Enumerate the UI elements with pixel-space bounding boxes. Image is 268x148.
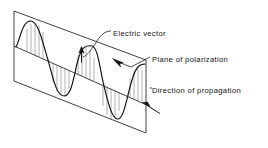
polarized-wave-diagram: Electric vector Plane of polarization Di…	[0, 0, 268, 148]
label-plane-of-polarization: Plane of polarization	[152, 55, 228, 64]
label-direction-of-propagation: Direction of propagation	[152, 86, 241, 95]
label-electric-vector: Electric vector	[113, 29, 166, 38]
